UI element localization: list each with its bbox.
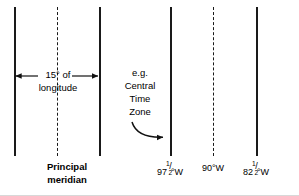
- meridian-line-second: [99, 7, 101, 156]
- lon-1-whole: 97: [157, 167, 167, 177]
- principal-line2: meridian: [47, 174, 87, 185]
- ctz-line1: e.g.: [132, 67, 148, 78]
- bottom-divider: [0, 195, 299, 196]
- lon-1-suffix: °W: [171, 167, 183, 177]
- principal-meridian-label: Principal meridian: [31, 161, 103, 186]
- meridian-line-principal: [14, 7, 16, 156]
- meridian-diagram: 15° of longitude e.g. Central Time Zone …: [0, 0, 299, 196]
- lon-3-fraction: /12: [253, 163, 257, 176]
- lon-1-fraction: /12: [167, 163, 171, 176]
- ctz-line3: Time: [130, 93, 151, 104]
- span-label-line2: longitude: [30, 82, 86, 95]
- longitude-label-82-5w: 82/12°W: [229, 163, 283, 177]
- lon-2-suffix: °W: [212, 163, 224, 173]
- lon-3-denominator: 2: [255, 170, 259, 177]
- ctz-line4: Zone: [129, 106, 151, 117]
- lon-3-whole: 82: [243, 167, 253, 177]
- lon-3-suffix: °W: [257, 167, 269, 177]
- lon-1-numerator: 1: [166, 161, 170, 168]
- span-label: 15° of longitude: [30, 69, 86, 94]
- meridian-line-82-5w: [256, 7, 258, 156]
- meridian-line-dashed-90w: [213, 7, 214, 156]
- meridian-line-97-5w: [170, 7, 172, 156]
- lon-2-whole: 90: [202, 163, 212, 173]
- central-time-zone-label: e.g. Central Time Zone: [114, 66, 166, 118]
- ctz-line2: Central: [125, 80, 156, 91]
- span-label-line1: 15° of: [46, 69, 71, 80]
- principal-line1: Principal: [47, 161, 87, 172]
- lon-1-denominator: 2: [169, 170, 173, 177]
- central-time-zone-pointer-arrow: [132, 122, 163, 137]
- lon-3-numerator: 1: [252, 161, 256, 168]
